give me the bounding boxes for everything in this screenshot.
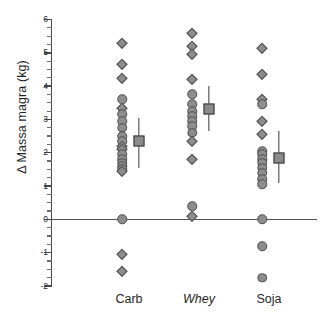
data-point <box>257 69 268 80</box>
data-point <box>187 74 198 85</box>
y-tick-minor <box>47 44 52 45</box>
y-tick-minor <box>47 27 52 28</box>
y-tick-minor <box>47 235 52 236</box>
y-tick-minor <box>47 277 52 278</box>
data-point <box>187 136 198 147</box>
data-point <box>257 273 267 283</box>
y-tick-label: 3 <box>22 115 48 124</box>
x-axis-label-whey: Whey <box>159 292 239 306</box>
y-tick-label: 4 <box>22 82 48 91</box>
data-point <box>117 266 128 277</box>
data-point <box>187 90 197 100</box>
data-point <box>117 215 127 225</box>
y-tick-minor <box>47 102 52 103</box>
y-tick-minor <box>47 169 52 170</box>
data-point <box>257 43 268 54</box>
x-axis-label-soja: Soja <box>229 292 309 306</box>
data-point <box>187 201 197 211</box>
y-tick-minor <box>47 127 52 128</box>
y-tick-minor <box>47 135 52 136</box>
y-tick-minor <box>47 111 52 112</box>
mean-marker <box>134 136 145 147</box>
data-point <box>187 154 198 165</box>
data-point <box>187 49 198 60</box>
zero-reference-line <box>51 219 317 220</box>
data-point <box>117 38 128 49</box>
y-tick-minor <box>47 260 52 261</box>
y-tick-minor <box>47 160 52 161</box>
y-tick-label: 0 <box>22 215 48 224</box>
y-tick-minor <box>47 269 52 270</box>
data-point <box>257 180 267 190</box>
y-tick-minor <box>47 202 52 203</box>
x-axis-label-carb: Carb <box>89 292 169 306</box>
y-tick-label: 2 <box>22 148 48 157</box>
y-tick-minor <box>47 177 52 178</box>
chart-canvas: Δ Massa magra (kg) 6543210-1-2 CarbWheyS… <box>0 0 321 322</box>
y-tick-label: 1 <box>22 182 48 191</box>
mean-marker <box>204 104 215 115</box>
y-tick-minor <box>47 77 52 78</box>
y-tick-minor <box>47 61 52 62</box>
y-tick-minor <box>47 36 52 37</box>
y-tick-label: 6 <box>22 15 48 24</box>
data-point <box>257 215 267 225</box>
y-tick-label: -1 <box>22 248 48 257</box>
y-tick-label: -2 <box>22 282 48 291</box>
y-tick-minor <box>47 94 52 95</box>
data-point <box>257 116 268 127</box>
data-point <box>257 100 267 110</box>
data-point <box>117 59 128 70</box>
data-point <box>257 129 268 140</box>
y-tick-minor <box>47 227 52 228</box>
y-tick-minor <box>47 144 52 145</box>
mean-marker <box>274 152 285 163</box>
data-point <box>257 241 267 251</box>
y-tick-minor <box>47 69 52 70</box>
data-point <box>117 249 128 260</box>
y-tick-minor <box>47 194 52 195</box>
y-tick-label: 5 <box>22 48 48 57</box>
data-point <box>187 28 198 39</box>
y-tick-minor <box>47 210 52 211</box>
y-tick-minor <box>47 244 52 245</box>
data-point <box>117 72 128 83</box>
